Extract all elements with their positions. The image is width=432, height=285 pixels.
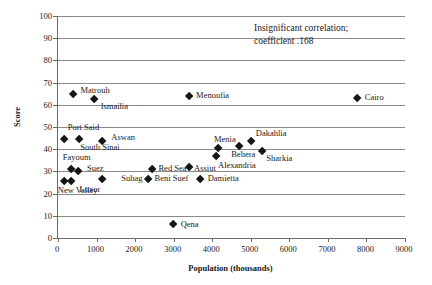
x-axis-tick xyxy=(58,238,59,242)
y-axis-tick xyxy=(53,105,58,106)
x-axis-tick xyxy=(97,238,98,242)
data-point-label: South Sinai xyxy=(80,143,119,152)
data-point-marker xyxy=(185,91,194,100)
y-axis-tick-label: 80 xyxy=(8,56,52,65)
data-point-label: Behera xyxy=(231,150,255,159)
y-axis-tick-label: 0 xyxy=(8,234,52,243)
y-axis-tick xyxy=(53,38,58,39)
x-axis-tick xyxy=(174,238,175,242)
gridline xyxy=(58,60,405,61)
y-axis-tick-label: 30 xyxy=(8,167,52,176)
y-axis-tick-label: 70 xyxy=(8,78,52,87)
data-point-label: Matrouh xyxy=(80,86,109,95)
x-axis-tick xyxy=(366,238,367,242)
data-point-label: Menoufia xyxy=(196,91,229,100)
data-point-label: Aswan xyxy=(111,133,135,142)
data-point-marker xyxy=(246,137,255,146)
x-axis-tick xyxy=(135,238,136,242)
annotation-line-2: coefficient .168 xyxy=(254,35,429,48)
y-axis-tick xyxy=(53,171,58,172)
y-axis-tick-label: 20 xyxy=(8,189,52,198)
data-point-label: Ismailia xyxy=(101,102,128,111)
data-point-label: Damietta xyxy=(208,174,239,183)
data-point-marker xyxy=(144,175,153,184)
gridline xyxy=(58,16,405,17)
gridline xyxy=(58,83,405,84)
data-point-label: Sharkia xyxy=(266,154,292,163)
data-point-label: Menia xyxy=(214,135,236,144)
y-axis-tick xyxy=(53,83,58,84)
x-axis-tick-label: 9000 xyxy=(381,244,427,254)
x-axis-tick xyxy=(289,238,290,242)
data-point-marker xyxy=(69,89,78,98)
gridline xyxy=(58,127,405,128)
y-axis-tick xyxy=(53,216,58,217)
y-axis-tick-label: 100 xyxy=(8,12,52,21)
y-axis-tick xyxy=(53,60,58,61)
data-point-marker xyxy=(196,175,205,184)
gridline xyxy=(58,238,405,239)
scatter-chart: 0102030405060708090100 Port SaidNew Vall… xyxy=(0,0,432,285)
y-axis-tick-label: 90 xyxy=(8,34,52,43)
data-point-label: Port Said xyxy=(68,123,99,132)
x-axis-tick xyxy=(405,238,406,242)
data-point-label: Cairo xyxy=(365,93,384,102)
x-axis-title: Population (thousands) xyxy=(57,263,404,273)
gridline xyxy=(58,194,405,195)
data-point-label: Suhag xyxy=(121,174,142,183)
data-point-marker xyxy=(98,175,107,184)
data-point-label: Luxor xyxy=(79,185,100,194)
data-point-label: Alexandria xyxy=(218,161,256,170)
data-point-marker xyxy=(352,94,361,103)
x-axis-tick xyxy=(251,238,252,242)
x-axis-tick xyxy=(212,238,213,242)
data-point-marker xyxy=(169,220,178,229)
y-axis-tick-labels: 0102030405060708090100 xyxy=(0,16,52,238)
data-point-marker xyxy=(74,167,83,176)
correlation-annotation: Insignificant correlation; coefficient .… xyxy=(254,22,429,47)
x-axis-tick xyxy=(328,238,329,242)
y-axis-tick xyxy=(53,149,58,150)
gridline xyxy=(58,216,405,217)
y-axis-title: Score xyxy=(12,87,22,147)
data-point-label: Beni Suef xyxy=(155,174,189,183)
data-point-marker xyxy=(90,95,99,104)
data-point-label: Qena xyxy=(181,220,199,229)
plot-area: Port SaidNew ValleyMatrouhFayoumLuxorSou… xyxy=(57,16,404,238)
y-axis-tick-label: 10 xyxy=(8,211,52,220)
annotation-line-1: Insignificant correlation; xyxy=(254,22,429,35)
data-point-label: Dakahlia xyxy=(256,129,287,138)
data-point-label: Assiut xyxy=(194,164,216,173)
y-axis-tick xyxy=(53,16,58,17)
data-point-label: Fayoum xyxy=(63,153,91,162)
data-point-label: Red Sea xyxy=(158,164,186,173)
data-point-marker xyxy=(59,135,68,144)
y-axis-tick xyxy=(53,127,58,128)
data-point-label: Suez xyxy=(87,164,104,173)
